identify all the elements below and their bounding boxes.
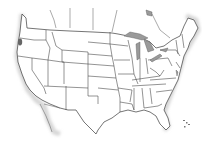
- bahamas-islands: [183, 120, 190, 128]
- us-outline-map: [0, 0, 217, 147]
- location-marker: [18, 39, 22, 46]
- us-outline: [17, 14, 198, 134]
- us-states-svg: [0, 0, 217, 147]
- hudson-bay-inlet: [146, 10, 152, 16]
